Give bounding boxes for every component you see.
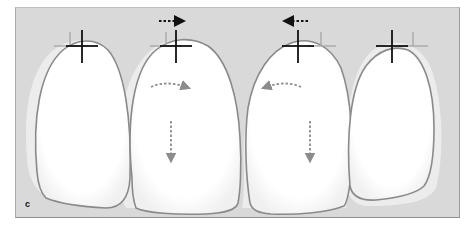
tooth-2 xyxy=(130,40,241,215)
ghost-crosshairs xyxy=(54,32,428,46)
tooth-1 xyxy=(36,41,131,208)
panel-label: c xyxy=(25,199,30,209)
crosshair-markers xyxy=(66,30,408,63)
teeth-diagram xyxy=(16,8,460,218)
tooth-3 xyxy=(246,41,352,214)
diagram-frame: c xyxy=(15,7,460,218)
